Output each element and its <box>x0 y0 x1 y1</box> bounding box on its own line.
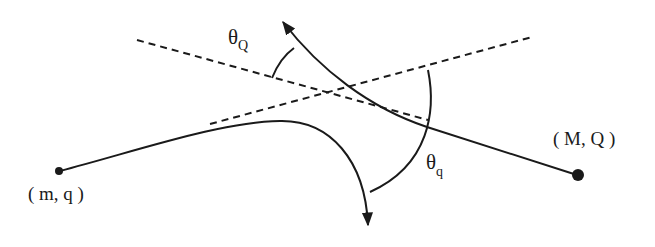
angle-arc-Q <box>272 48 294 78</box>
scattering-diagram: ( m, q ) ( M, Q ) θQ θq <box>0 0 655 247</box>
angle-arc-q <box>370 70 431 192</box>
theta-Q-subscript: Q <box>238 38 248 53</box>
asymptote-line-incoming-large <box>210 37 532 124</box>
particle-large-dot <box>572 169 584 181</box>
trajectory-small-particle <box>60 121 368 225</box>
theta-q-symbol: θ <box>426 150 436 174</box>
label-particle-large: ( M, Q ) <box>553 128 615 150</box>
theta-Q-symbol: θ <box>228 25 238 49</box>
theta-q-subscript: q <box>436 164 443 179</box>
label-particle-small: ( m, q ) <box>28 183 84 205</box>
label-theta-q: θq <box>426 150 443 179</box>
label-theta-Q: θQ <box>228 25 248 53</box>
particle-small-dot <box>55 167 63 175</box>
